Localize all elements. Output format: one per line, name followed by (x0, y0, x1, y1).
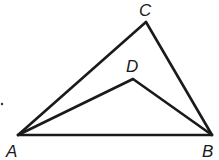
label-c: C (139, 1, 152, 20)
label-a: A (5, 142, 17, 160)
segment-db (133, 79, 212, 135)
geometry-diagram: A B C D (0, 0, 219, 160)
segment-cb (146, 22, 212, 135)
segment-ac (18, 22, 146, 135)
label-b: B (202, 142, 213, 160)
stray-dot (1, 103, 3, 105)
label-d: D (126, 57, 138, 76)
segment-ad (18, 79, 133, 135)
